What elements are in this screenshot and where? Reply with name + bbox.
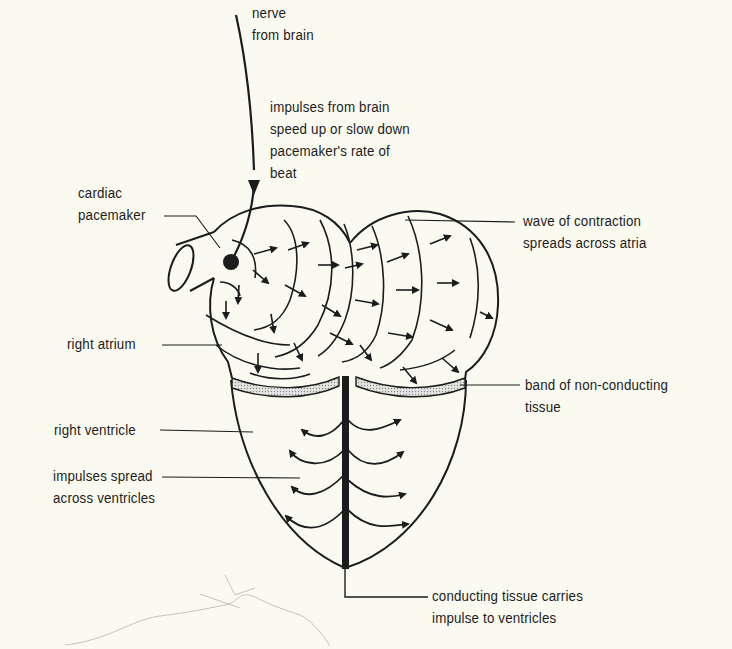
label-impulses-spread-line1: impulses spread <box>53 465 155 487</box>
label-pacemaker-line2: pacemaker <box>78 204 145 226</box>
label-nerve-line2: from brain <box>252 24 314 46</box>
label-cardiac-pacemaker: cardiac pacemaker <box>78 182 145 226</box>
label-impulses-from-brain: impulses from brain speed up or slow dow… <box>270 96 410 184</box>
label-impulses-brain-line4: beat <box>270 162 410 184</box>
label-impulses-spread-line2: across ventricles <box>53 487 155 509</box>
label-nerve-line1: nerve <box>252 2 314 24</box>
label-right-ventricle-line1: right ventricle <box>54 419 136 441</box>
pacemaker-node <box>223 254 239 270</box>
conducting-tissue-bar <box>342 376 349 569</box>
label-band-line1: band of non-conducting <box>525 374 668 396</box>
label-right-atrium: right atrium <box>67 333 136 355</box>
label-nerve: nerve from brain <box>252 2 314 46</box>
label-impulses-brain-line1: impulses from brain <box>270 96 410 118</box>
label-non-conducting-band: band of non-conducting tissue <box>525 374 668 418</box>
label-conducting-tissue: conducting tissue carries impulse to ven… <box>432 585 583 629</box>
label-wave-line1: wave of contraction <box>523 210 646 232</box>
label-pacemaker-line1: cardiac <box>78 182 145 204</box>
label-impulses-brain-line3: pacemaker's rate of <box>270 140 410 162</box>
nerve-from-brain <box>231 15 260 262</box>
label-band-line2: tissue <box>525 396 668 418</box>
label-impulses-brain-line2: speed up or slow down <box>270 118 410 140</box>
atria-arrows <box>226 236 492 383</box>
stray-thread <box>65 595 330 646</box>
label-right-ventricle: right ventricle <box>54 419 136 441</box>
label-wave-line2: spreads across atria <box>523 232 646 254</box>
label-wave-of-contraction: wave of contraction spreads across atria <box>523 210 646 254</box>
label-right-atrium-line1: right atrium <box>67 333 136 355</box>
leader-lines <box>160 216 520 478</box>
label-conducting-line2: impulse to ventricles <box>432 607 583 629</box>
label-conducting-line1: conducting tissue carries <box>432 585 583 607</box>
label-impulses-spread: impulses spread across ventricles <box>53 465 155 509</box>
